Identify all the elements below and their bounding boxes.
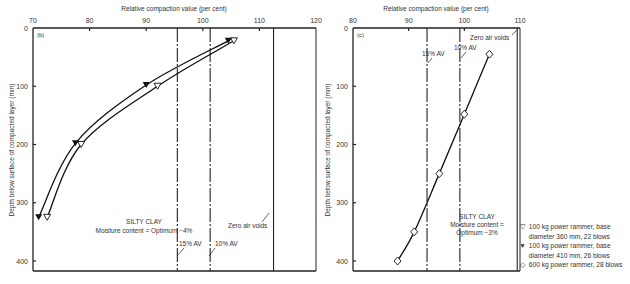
svg-text:Moisture content = Optimum −4%: Moisture content = Optimum −4% (96, 227, 193, 235)
svg-text:200: 200 (16, 141, 28, 148)
svg-text:80: 80 (349, 17, 357, 24)
legend: ▽ 100 kg power rammer, base diameter 360… (518, 222, 622, 270)
x-axis-label: Relative compaction value (per cent) (121, 5, 227, 13)
svg-text:10% AV: 10% AV (215, 240, 238, 247)
svg-text:Zero air voids: Zero air voids (470, 34, 510, 41)
svg-text:Optimum −3%: Optimum −3% (456, 229, 498, 237)
data-point (411, 228, 418, 236)
legend-item: ▼ 100 kg power rammer, base (518, 241, 622, 251)
data-point (486, 50, 493, 58)
y-axis-label: Depth below surface of compacted layer (… (8, 84, 16, 217)
legend-item: diameter 360 mm, 22 blows (518, 232, 622, 242)
svg-text:70: 70 (29, 17, 37, 24)
diamond-icon: ◇ (518, 260, 527, 270)
svg-text:300: 300 (336, 199, 348, 206)
data-point (44, 214, 51, 220)
svg-text:120: 120 (310, 17, 322, 24)
svg-text:80: 80 (86, 17, 94, 24)
svg-text:(b): (b) (37, 32, 44, 38)
svg-text:15% AV: 15% AV (179, 240, 202, 247)
svg-text:110: 110 (254, 17, 265, 24)
svg-text:SILTY CLAY: SILTY CLAY (459, 213, 495, 220)
data-point (35, 214, 42, 220)
x-axis-label: Relative compaction value (per cent) (383, 5, 489, 13)
svg-text:110: 110 (514, 17, 525, 24)
legend-item: diameter 410 mm, 26 blows (518, 251, 622, 261)
y-axis-label: Depth below surface of compacted layer (… (324, 84, 332, 217)
svg-text:SILTY CLAY: SILTY CLAY (126, 218, 162, 225)
svg-text:400: 400 (16, 258, 28, 265)
open-triangle-icon: ▽ (518, 222, 527, 232)
svg-text:(c): (c) (357, 32, 364, 38)
svg-text:Zero air voids: Zero air voids (228, 222, 268, 229)
svg-text:10% AV: 10% AV (454, 44, 477, 51)
svg-text:90: 90 (142, 17, 150, 24)
legend-item: ◇ 600 kg power rammer, 28 blows (518, 260, 622, 270)
svg-text:0: 0 (344, 25, 348, 32)
data-point (436, 170, 443, 178)
svg-text:90: 90 (405, 17, 413, 24)
svg-text:300: 300 (16, 199, 28, 206)
svg-text:100: 100 (197, 17, 209, 24)
svg-text:0: 0 (24, 25, 28, 32)
svg-text:15% AV: 15% AV (422, 50, 445, 57)
svg-text:100: 100 (458, 17, 470, 24)
filled-triangle-icon: ▼ (518, 241, 527, 251)
svg-text:Moisture content =: Moisture content = (450, 221, 504, 228)
data-point (461, 110, 468, 118)
chart-panel-c: Relative compaction value (per cent)8090… (324, 5, 526, 271)
legend-item: ▽ 100 kg power rammer, base (518, 222, 622, 232)
svg-text:400: 400 (336, 258, 348, 265)
chart-panel-b: Relative compaction value (per cent)7080… (8, 5, 322, 271)
svg-text:100: 100 (16, 83, 28, 90)
svg-text:100: 100 (336, 83, 348, 90)
svg-text:200: 200 (336, 141, 348, 148)
